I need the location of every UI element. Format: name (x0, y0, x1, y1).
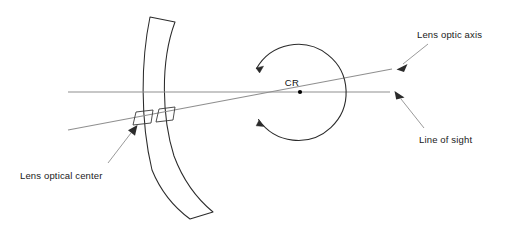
lens-optic-axis-arrowhead (397, 64, 408, 72)
lens-body (143, 17, 213, 219)
meniscus-lens (143, 17, 213, 219)
lens-optic-axis-leader (403, 44, 428, 64)
cr-label: CR (285, 77, 299, 88)
center-of-rotation-point (298, 90, 302, 94)
line-of-sight-annotation: Line of sight (395, 91, 473, 145)
lens-optical-center-leader (108, 133, 131, 163)
optical-diagram-canvas: CR Lens optic axis Line of sight Lens op… (0, 0, 520, 239)
lens-optic-axis-label: Lens optic axis (417, 29, 482, 40)
lens-optic-axis-annotation: Lens optic axis (397, 29, 483, 72)
rotation-arrowhead-bottom (256, 120, 264, 126)
lens-optic-axis-line (68, 69, 392, 130)
line-of-sight-leader (401, 99, 424, 128)
line-of-sight-label: Line of sight (419, 134, 472, 145)
lens-optical-center-arrowhead (128, 125, 138, 136)
lens-optical-center-label: Lens optical center (20, 170, 103, 181)
lens-optical-center-annotation: Lens optical center (20, 125, 138, 181)
line-of-sight-arrowhead (395, 91, 405, 100)
